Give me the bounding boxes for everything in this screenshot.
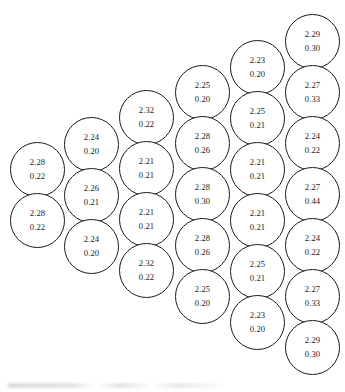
circle-value-bottom: 0.30 xyxy=(305,350,320,359)
circle-value-top: 2.23 xyxy=(250,311,265,320)
circle-value-top: 2.32 xyxy=(139,259,154,268)
data-circle: 2.250.20 xyxy=(175,65,230,120)
circle-value-top: 2.21 xyxy=(139,157,154,166)
circle-value-top: 2.27 xyxy=(305,183,320,192)
circle-value-bottom: 0.26 xyxy=(195,146,210,155)
data-circle: 2.240.20 xyxy=(64,219,119,274)
circle-value-top: 2.25 xyxy=(195,81,210,90)
data-circle: 2.290.30 xyxy=(285,320,340,375)
circle-value-top: 2.21 xyxy=(139,208,154,217)
data-circle: 2.230.20 xyxy=(230,40,285,95)
page-edge-artifact xyxy=(8,383,226,388)
circle-value-top: 2.28 xyxy=(195,183,210,192)
circle-value-bottom: 0.22 xyxy=(305,146,320,155)
circle-value-bottom: 0.21 xyxy=(250,172,265,181)
circle-value-bottom: 0.44 xyxy=(305,197,320,206)
circle-value-top: 2.28 xyxy=(30,158,45,167)
circle-value-top: 2.25 xyxy=(250,107,265,116)
data-circle: 2.320.22 xyxy=(119,90,174,145)
circle-value-bottom: 0.20 xyxy=(195,299,210,308)
circle-value-bottom: 0.22 xyxy=(305,248,320,257)
data-circle: 2.280.26 xyxy=(175,116,230,171)
data-circle: 2.250.21 xyxy=(230,244,285,299)
circle-value-bottom: 0.30 xyxy=(195,197,210,206)
data-circle: 2.280.30 xyxy=(175,167,230,222)
circle-value-bottom: 0.21 xyxy=(84,198,99,207)
circle-value-bottom: 0.26 xyxy=(195,248,210,257)
circle-value-top: 2.27 xyxy=(305,81,320,90)
circle-value-top: 2.24 xyxy=(84,133,99,142)
data-circle: 2.210.21 xyxy=(119,192,174,247)
circle-value-top: 2.23 xyxy=(250,56,265,65)
circle-value-top: 2.29 xyxy=(305,336,320,345)
circle-value-top: 2.25 xyxy=(250,260,265,269)
circle-value-bottom: 0.22 xyxy=(30,223,45,232)
circle-value-bottom: 0.20 xyxy=(84,147,99,156)
data-circle: 2.290.30 xyxy=(285,14,340,69)
circle-value-top: 2.28 xyxy=(30,209,45,218)
circle-value-bottom: 0.33 xyxy=(305,95,320,104)
data-circle: 2.320.22 xyxy=(119,243,174,298)
circle-value-bottom: 0.21 xyxy=(250,121,265,130)
circle-value-top: 2.26 xyxy=(84,184,99,193)
circle-value-bottom: 0.30 xyxy=(305,44,320,53)
circle-value-top: 2.21 xyxy=(250,158,265,167)
circle-value-bottom: 0.20 xyxy=(84,249,99,258)
data-circle: 2.250.21 xyxy=(230,91,285,146)
circle-value-top: 2.24 xyxy=(84,235,99,244)
circle-value-bottom: 0.21 xyxy=(250,223,265,232)
circle-value-bottom: 0.20 xyxy=(195,95,210,104)
circle-value-top: 2.28 xyxy=(195,234,210,243)
data-circle: 2.240.20 xyxy=(64,117,119,172)
circle-value-bottom: 0.21 xyxy=(139,171,154,180)
data-circle: 2.260.21 xyxy=(64,168,119,223)
circle-value-bottom: 0.20 xyxy=(250,70,265,79)
data-circle: 2.240.22 xyxy=(285,116,340,171)
data-circle: 2.280.26 xyxy=(175,218,230,273)
data-circle: 2.250.20 xyxy=(175,269,230,324)
circle-value-top: 2.32 xyxy=(139,106,154,115)
circle-packing-diagram: 2.280.222.280.222.240.202.260.212.240.20… xyxy=(0,0,345,392)
circle-value-top: 2.29 xyxy=(305,30,320,39)
data-circle: 2.280.22 xyxy=(10,142,65,197)
circle-value-top: 2.24 xyxy=(305,234,320,243)
circle-value-bottom: 0.33 xyxy=(305,299,320,308)
circle-value-bottom: 0.21 xyxy=(250,274,265,283)
circle-value-top: 2.28 xyxy=(195,132,210,141)
data-circle: 2.210.21 xyxy=(230,193,285,248)
data-circle: 2.240.22 xyxy=(285,218,340,273)
data-circle: 2.270.44 xyxy=(285,167,340,222)
circle-value-bottom: 0.22 xyxy=(30,172,45,181)
circle-value-top: 2.24 xyxy=(305,132,320,141)
data-circle: 2.280.22 xyxy=(10,193,65,248)
circle-value-bottom: 0.21 xyxy=(139,222,154,231)
circle-value-bottom: 0.20 xyxy=(250,325,265,334)
circle-value-top: 2.21 xyxy=(250,209,265,218)
circle-value-top: 2.25 xyxy=(195,285,210,294)
circle-value-top: 2.27 xyxy=(305,285,320,294)
data-circle: 2.210.21 xyxy=(119,141,174,196)
data-circle: 2.210.21 xyxy=(230,142,285,197)
circle-value-bottom: 0.22 xyxy=(139,120,154,129)
data-circle: 2.270.33 xyxy=(285,65,340,120)
circle-value-bottom: 0.22 xyxy=(139,273,154,282)
data-circle: 2.270.33 xyxy=(285,269,340,324)
data-circle: 2.230.20 xyxy=(230,295,285,350)
